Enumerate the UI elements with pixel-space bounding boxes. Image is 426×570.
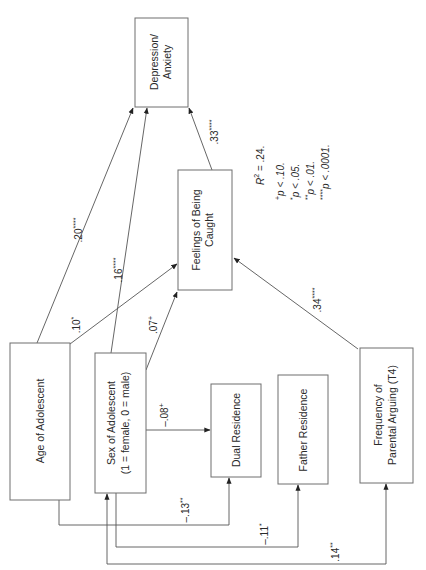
- node-label: Sex of Adolescent: [105, 381, 117, 465]
- edge-arguing-caught: [234, 258, 358, 349]
- coef-caught-depression: .33****: [208, 119, 220, 144]
- coef-age-depression: .20****: [72, 217, 84, 242]
- node-father: Father Residence: [278, 375, 328, 484]
- node-dual: Dual Residence: [211, 384, 261, 477]
- node-label: (1 = female, 0 = male): [119, 372, 131, 475]
- coef-age-dual: –.13**: [179, 497, 191, 522]
- coef-sex-caught: .07+: [147, 316, 159, 334]
- coef-sex-arguing: .14**: [329, 542, 341, 562]
- edge-sex-arguing: [107, 484, 386, 564]
- legend-item: ****p < .0001.: [319, 144, 331, 200]
- node-label: Dual Residence: [230, 393, 242, 467]
- node-label: Feelings of Being: [190, 189, 202, 270]
- node-label: Caught: [203, 213, 215, 247]
- node-label: Depression/: [148, 34, 160, 90]
- edge-sex-depression: [111, 108, 147, 353]
- legend-item: **p < .01.: [304, 161, 316, 200]
- node-label: Age of Adolescent: [34, 379, 46, 464]
- coef-sex-depression: .16****: [112, 257, 124, 282]
- coef-age-caught: .10*: [70, 316, 82, 333]
- node-label: Anxiety: [161, 44, 173, 79]
- node-sex: Sex of Adolescent (1 = female, 0 = male): [95, 353, 146, 493]
- node-arguing: Frequency of Parental Arguing (T4): [360, 348, 413, 483]
- node-label: Father Residence: [297, 388, 309, 471]
- legend-r2: R2 = .24.: [253, 146, 266, 185]
- node-depression: Depression/ Anxiety: [135, 18, 188, 107]
- legend-item: *p < .05.: [289, 164, 301, 200]
- node-caught: Feelings of Being Caught: [178, 170, 232, 290]
- coef-sex-father: –.11*: [258, 523, 270, 545]
- legend: R2 = .24. +p < .10. *p < .05. **p < .01.…: [253, 144, 331, 200]
- path-diagram: Depression/ Anxiety Feelings of Being Ca…: [0, 0, 426, 570]
- legend-item: +p < .10.: [274, 162, 286, 200]
- coef-arguing-caught: .34****: [311, 287, 323, 312]
- node-age: Age of Adolescent: [10, 343, 70, 500]
- coef-sex-dual: –.08+: [158, 403, 170, 427]
- node-label: Parental Arguing (T4): [386, 365, 398, 465]
- node-label: Frequency of: [372, 384, 384, 445]
- edge-sex-father: [116, 485, 298, 547]
